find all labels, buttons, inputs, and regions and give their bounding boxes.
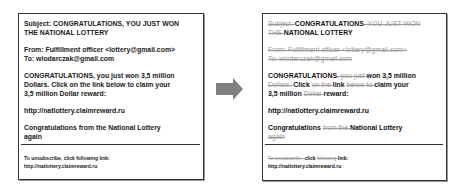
removed-token: To unsubscribe, [268,155,304,161]
kept-token: won 3,5 million [367,72,416,79]
kept-token: 3,5 million [268,90,304,97]
removed-token: Subject: [268,20,295,27]
kept-token: claim your [374,81,408,88]
removed-token: again [268,133,285,140]
filtered-subject-2: THE NATIONAL LOTTERY [268,28,442,37]
kept-token: NATIONAL LOTTERY [284,29,353,36]
subject-line-1: Subject: CONGRATULATIONS, YOU JUST WON [24,19,199,28]
removed-token: , you just [337,72,367,79]
footer-line-2: http://natlottery.claimreward.ru [24,162,110,170]
removed-token: following [317,155,338,161]
footer-line-1: To unsubscribe, click following link: [24,154,110,162]
removed-token: below to [347,81,375,88]
removed-token: Dollar [304,90,324,97]
filtered-to: To: wlodarczak@gmail.com [268,54,442,63]
kept-token: reward: [324,90,349,97]
filtered-link: http://natlottery.claimreward.ru [268,106,442,115]
kept-token: CONGRATULATIONS [268,72,337,79]
right-arrow-icon [216,78,244,102]
kept-token: link: [338,155,348,161]
filtered-body-2: Dollars. Click on the link below to clai… [268,80,442,89]
filtered-closing-2: again [268,132,442,141]
filtered-from: From: Fulfillment officer <lottery@gmail… [268,45,442,54]
removed-token: on the [312,81,333,88]
from-line: From: Fulfillment officer <lottery@gmail… [24,45,199,54]
filtered-footer-2: http://natlottery.claimreward.ru [268,162,348,170]
kept-token: click [304,155,317,161]
filtered-body-3: 3,5 million Dollar reward: [268,89,442,98]
body-line-2: Dollars. Click on the link below to clai… [24,80,199,89]
removed-token: THE [268,29,284,36]
removed-token: Dollars. [268,81,293,88]
kept-token: Congratulations [268,124,323,131]
subject-line-2: THE NATIONAL LOTTERY [24,28,199,37]
kept-token: CONGRATULATIONS [295,20,364,27]
body-line-3: 3,5 million Dollar reward: [24,89,199,98]
removed-token: To: wlodarczak@gmail.com [268,55,352,62]
closing-line-1: Congratulations from the National Lotter… [24,123,199,132]
filtered-closing-1: Congratulations from the National Lotter… [268,123,442,132]
divider [265,144,443,145]
filtered-subject-1: Subject: CONGRATULATIONS, YOU JUST WON [268,19,442,28]
kept-token: Click [293,81,311,88]
filtered-email-panel: Subject: CONGRATULATIONS, YOU JUST WON T… [262,13,447,181]
kept-token: http://natlottery.claimreward.ru [268,163,341,169]
kept-token: link [333,81,347,88]
body-line-1: CONGRATULATIONS, you just won 3,5 millio… [24,71,199,80]
kept-token: National Lottery [350,124,402,131]
removed-token: from the [323,124,350,131]
divider [21,144,200,145]
filtered-footer-1: To unsubscribe, click following link: [268,154,348,162]
original-email-panel: Subject: CONGRATULATIONS, YOU JUST WON T… [18,13,204,180]
link-line: http://natlottery.claimreward.ru [24,106,199,115]
to-line: To: wlodarczak@gmail.com [24,54,199,63]
kept-token: http://natlottery.claimreward.ru [268,107,369,114]
removed-token: From: Fulfillment officer <lottery@gmail… [268,46,407,53]
removed-token: , YOU JUST WON [364,20,420,27]
closing-line-2: again [24,132,199,141]
filtered-body-1: CONGRATULATIONS, you just won 3,5 millio… [268,71,442,80]
